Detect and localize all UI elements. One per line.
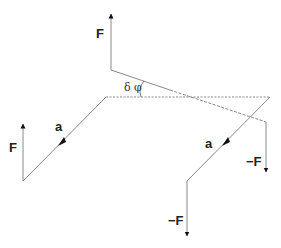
label-force-right: −F — [246, 154, 262, 169]
rotated-line-dashed — [170, 90, 266, 122]
label-angle-delta-phi: δ φ — [124, 81, 142, 94]
label-vector-a-right: a — [205, 136, 213, 151]
label-force-bottom: −F — [168, 213, 184, 228]
label-vector-a-left: a — [55, 119, 63, 134]
label-force-left: F — [9, 140, 17, 155]
torque-diagram: F F −F −F a a δ φ — [0, 0, 281, 248]
label-force-top: F — [96, 26, 104, 41]
